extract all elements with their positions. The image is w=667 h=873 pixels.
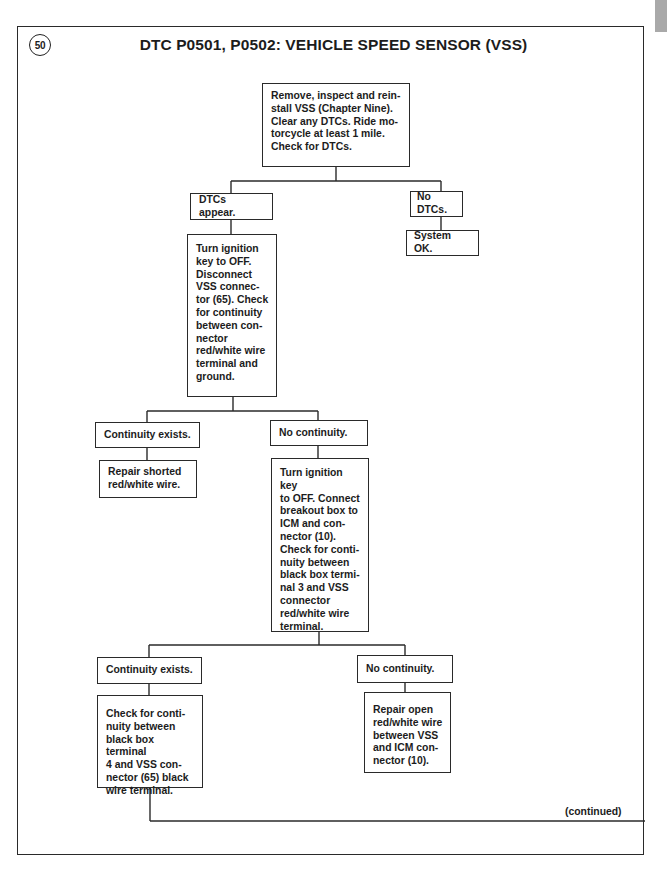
step-repair-open: Repair open red/white wire between VSS a…	[364, 692, 451, 773]
step-check-ground: Turn ignition key to OFF. Disconnect VSS…	[187, 234, 277, 397]
result-dtcs-appear: DTCs appear.	[190, 193, 273, 220]
step-breakout-check: Turn ignition key to OFF. Connect breako…	[271, 458, 369, 632]
step-check-black-wire: Check for conti- nuity between black box…	[97, 695, 203, 788]
result-no-continuity-1: No continuity.	[270, 420, 368, 446]
step-text: Continuity exists.	[106, 664, 193, 677]
step-text: Turn ignition key to OFF. Connect breako…	[280, 467, 361, 633]
step-repair-shorted: Repair shorted red/white wire.	[99, 460, 197, 498]
step-text: DTCs appear.	[199, 194, 264, 220]
step-text: Remove, inspect and rein- stall VSS (Cha…	[271, 90, 402, 154]
step-text: Continuity exists.	[104, 429, 191, 442]
step-text: Check for conti- nuity between black box…	[106, 708, 195, 798]
step-start: Remove, inspect and rein- stall VSS (Cha…	[262, 83, 410, 167]
result-no-continuity-2: No continuity.	[357, 655, 453, 683]
step-text: System OK.	[414, 230, 471, 256]
step-text: Repair shorted red/white wire.	[108, 466, 189, 492]
step-text: No continuity.	[366, 663, 435, 676]
continued-label: (continued)	[565, 806, 622, 817]
result-continuity-exists-2: Continuity exists.	[97, 657, 202, 684]
result-no-dtcs: No DTCs.	[410, 191, 463, 217]
step-text: Repair open red/white wire between VSS a…	[373, 704, 443, 768]
step-text: Turn ignition key to OFF. Disconnect VSS…	[196, 243, 269, 384]
step-text: No continuity.	[279, 427, 348, 440]
step-text: No DTCs.	[417, 191, 456, 217]
result-continuity-exists-1: Continuity exists.	[95, 422, 200, 448]
result-system-ok: System OK.	[406, 230, 479, 256]
